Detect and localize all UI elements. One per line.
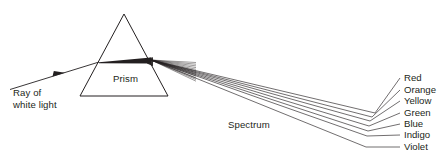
diagram-canvas: Ray of white light Prism Spectrum RedOra… bbox=[0, 0, 447, 165]
ray-label-line1: Ray of bbox=[13, 87, 42, 98]
prism-label: Prism bbox=[113, 73, 138, 84]
color-label-blue: Blue bbox=[404, 118, 423, 129]
color-label-yellow: Yellow bbox=[404, 95, 431, 106]
ray-label-line2: white light bbox=[12, 99, 57, 110]
color-label-violet: Violet bbox=[404, 141, 428, 152]
color-label-orange: Orange bbox=[404, 84, 436, 95]
color-label-green: Green bbox=[404, 107, 431, 118]
prism-dispersion-diagram: Ray of white light Prism Spectrum RedOra… bbox=[0, 0, 447, 165]
spectrum-label: Spectrum bbox=[228, 119, 270, 130]
color-label-indigo: Indigo bbox=[404, 129, 430, 140]
canvas-background bbox=[0, 0, 447, 165]
color-label-red: Red bbox=[404, 72, 422, 83]
